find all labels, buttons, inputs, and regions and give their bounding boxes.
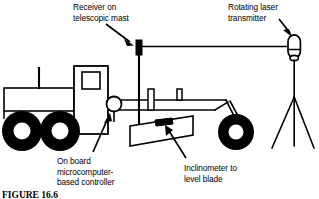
inclinometer-label-line1: Inclinometer to [184,163,237,173]
cab-window [82,72,100,89]
on-board-controller-label: On board microcomputer- based controller [57,156,114,188]
transmitter-label-line2: transmitter [228,13,266,23]
laser-receiver-head [136,40,142,55]
controller-label-line3: based controller [57,177,114,187]
laser-grading-diagram [0,0,319,199]
receiver-label-line1: Receiver on [73,2,116,12]
front-yoke [226,100,238,116]
laser-transmitter-head [288,35,300,61]
engine-hood [4,88,74,111]
inclinometer-sensor [155,118,173,126]
controller-label-line1: On board [57,156,91,166]
telescopic-mast [136,40,142,135]
rear-wheel-left [2,111,42,151]
leader-arrow-receiver [106,24,134,46]
receiver-on-telescopic-mast-label: Receiver on telescopic mast [73,2,129,23]
transmitter-label-line1: Rotating laser [228,2,278,12]
figure-root: Receiver on telescopic mast Rotating las… [0,0,319,199]
laser-transmitter-assembly [272,35,314,148]
receiver-label-line2: telescopic mast [73,13,129,23]
tripod [272,60,314,148]
rear-wheel-right [40,111,80,151]
front-wheel [218,114,254,150]
main-frame-beam [108,100,228,110]
figure-caption: FIGURE 16.6 [2,190,58,199]
grader-wheels [2,111,254,151]
rotating-laser-transmitter-label: Rotating laser transmitter [228,2,278,23]
inclinometer-label-line2: level blade [184,174,223,184]
leader-arrow-transmitter [279,19,292,37]
inclinometer-label: Inclinometer to level blade [184,163,237,184]
controller-label-line2: microcomputer- [57,167,113,177]
